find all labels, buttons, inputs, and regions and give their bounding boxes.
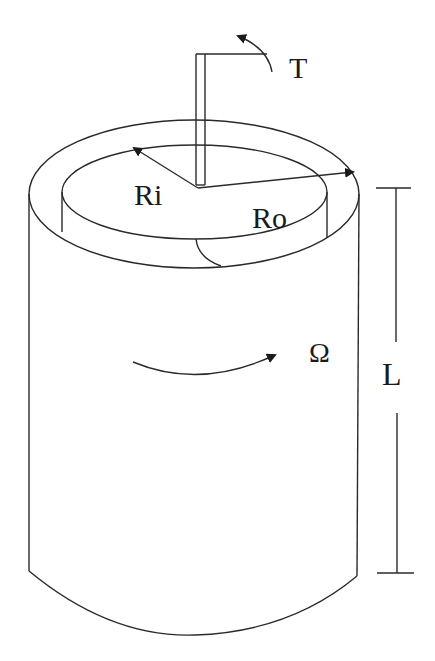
inner-cylinder-seam	[196, 239, 221, 266]
outer-cylinder-bottom	[29, 571, 357, 635]
torque-shaft	[196, 54, 267, 185]
inner-radius-label: Ri	[134, 178, 162, 211]
inner-cylinder-top	[62, 145, 327, 239]
inner-cylinder	[62, 145, 327, 266]
outer-cylinder-top-rim	[29, 120, 359, 268]
torque-label: T	[289, 51, 307, 84]
outer-radius-label: Ro	[252, 201, 287, 234]
angular-velocity-label: Ω	[309, 337, 330, 368]
outer-cylinder-right-wall	[357, 194, 359, 576]
outer-radius-arrow-icon	[198, 172, 353, 188]
length-label: L	[382, 356, 402, 392]
outer-cylinder	[29, 120, 359, 635]
viscometer-diagram: T Ri Ro Ω L	[0, 0, 435, 661]
rotation-arrow-icon	[133, 355, 275, 374]
